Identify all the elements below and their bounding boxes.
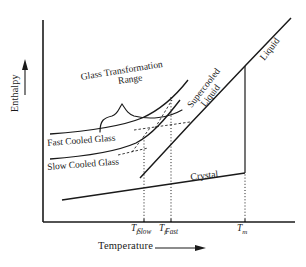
dashed-riser-slow	[132, 128, 150, 152]
dashed-extension-fast	[134, 122, 190, 130]
enthalpy-temperature-diagram: Enthalpy Temperature Glass Transformatio…	[0, 0, 306, 267]
slow-cooled-glass-curve	[50, 100, 180, 159]
tick-label-tf-fast: TfFast	[159, 224, 179, 236]
tick-sub-tm: m	[242, 228, 247, 236]
y-axis-label: Enthalpy	[10, 74, 21, 112]
x-axis-arrow-icon	[155, 245, 206, 251]
x-axis-label: Temperature	[98, 240, 153, 251]
dashed-extension-slow	[118, 148, 148, 155]
dashed-extension-lines	[118, 100, 190, 155]
y-axis-arrow-icon	[22, 59, 28, 95]
diagram-canvas	[0, 0, 306, 267]
tick-label-tf-slow: TfSlow	[131, 224, 152, 236]
tick-subsub-tf-slow: Slow	[137, 228, 151, 236]
tick-label-tm: Tm	[237, 224, 247, 236]
tick-subsub-tf-fast: Fast	[165, 228, 178, 236]
axis-lines	[43, 20, 295, 222]
dotted-guide-lines	[144, 97, 245, 222]
